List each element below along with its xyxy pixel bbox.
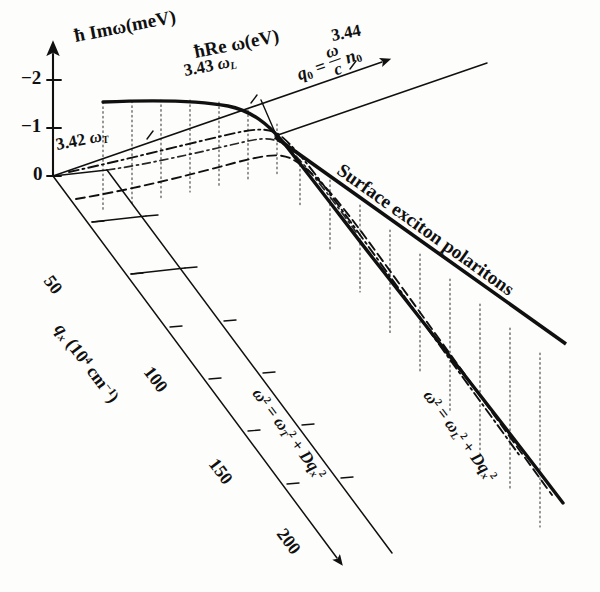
connector-dotted-left xyxy=(103,100,277,212)
tick-im-minus1: −1 xyxy=(21,116,41,135)
light-line-q0 xyxy=(261,63,487,137)
curve-im-omega-thick xyxy=(103,101,563,503)
axis-qx-line xyxy=(53,170,392,558)
tick-im-minus2: −2 xyxy=(21,68,41,87)
curve-dashdot-upper xyxy=(69,130,520,456)
dispersion-figure xyxy=(0,0,600,592)
axis-im-omega-line xyxy=(47,54,61,176)
tick-im-zero: 0 xyxy=(33,164,43,183)
